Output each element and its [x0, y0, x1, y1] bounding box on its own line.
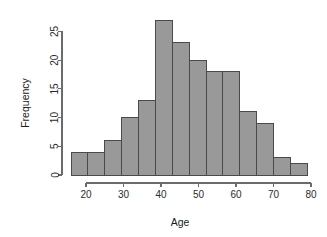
- x-axis-tick-label: 40: [155, 189, 167, 200]
- x-axis-tick-label: 20: [80, 189, 92, 200]
- y-axis-tick-label: 15: [50, 83, 61, 95]
- histogram-bar: [105, 141, 122, 175]
- y-axis-tick-label: 10: [50, 112, 61, 124]
- histogram-bar: [290, 164, 307, 175]
- chart-canvas: 0510152025 20304050607080 Age Frequency: [0, 0, 327, 237]
- x-axis-tick-label: 80: [305, 189, 317, 200]
- histogram-bar: [223, 72, 240, 175]
- y-axis-tick-label: 5: [50, 143, 61, 149]
- x-axis-tick-label: 30: [118, 189, 130, 200]
- histogram-chart: 0510152025 20304050607080 Age Frequency: [0, 0, 327, 237]
- x-axis-title: Age: [171, 216, 190, 228]
- y-axis-title: Frequency: [19, 77, 31, 127]
- histogram-bar: [122, 118, 139, 175]
- x-axis-tick-label: 60: [230, 189, 242, 200]
- histogram-bar: [189, 60, 206, 175]
- histogram-bar: [88, 152, 105, 175]
- y-axis-tick-label: 0: [50, 172, 61, 178]
- histogram-bar: [155, 20, 172, 175]
- histogram-bar: [206, 72, 223, 175]
- histogram-bar: [274, 158, 291, 175]
- histogram-bar: [139, 100, 156, 175]
- x-axis-tick-label: 50: [193, 189, 205, 200]
- y-axis-tick-label: 20: [50, 54, 61, 66]
- x-axis-tick-label: 70: [268, 189, 280, 200]
- histogram-bar: [172, 43, 189, 175]
- histogram-bar: [240, 112, 257, 175]
- histogram-bar: [257, 123, 274, 175]
- histogram-bar: [71, 152, 88, 175]
- y-axis-tick-label: 25: [50, 25, 61, 37]
